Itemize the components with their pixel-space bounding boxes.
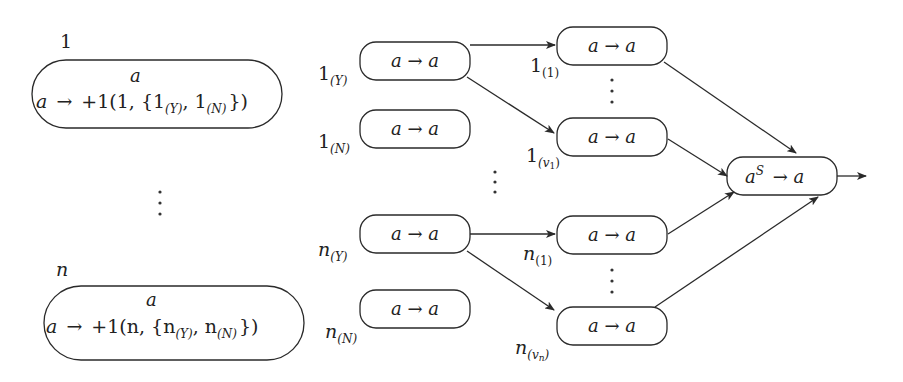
right-node-1-1-rule: a → a	[588, 35, 636, 56]
right-node-n-vn-rule: a → a	[588, 315, 636, 336]
middle-node-1Y-label: 1(Y)	[318, 62, 348, 88]
left-node-1-top: a	[130, 65, 141, 86]
membrane-system-diagram: 1 a a → +1(1, {1(Y), 1(N)}) n a a → +1(n…	[0, 0, 903, 382]
left-node-1: 1 a a → +1(1, {1(Y), 1(N)})	[32, 30, 282, 128]
left-node-n: n a a → +1(n, {n(Y), n(N)})	[44, 258, 304, 360]
middle-node-nN: a → a n(N)	[325, 290, 470, 346]
right-node-1-v1-rule: a → a	[588, 126, 636, 147]
right-node-n-1-rule: a → a	[588, 224, 636, 245]
middle-node-nY-label: n(Y)	[318, 238, 348, 264]
right-node-1-v1-label: 1(v1)	[526, 144, 560, 171]
middle-node-1N: a → a 1(N)	[318, 110, 470, 156]
right-node-1-1: a → a 1(1)	[530, 27, 667, 80]
right-node-n-vn-label: n(vn)	[515, 336, 550, 363]
left-node-n-label: n	[56, 258, 68, 280]
middle-node-1N-rule: a → a	[391, 118, 439, 139]
edges	[467, 45, 866, 310]
middle-node-1N-label: 1(N)	[318, 130, 350, 156]
right-upper-ellipsis	[610, 78, 613, 103]
middle-node-1Y-rule: a → a	[391, 50, 439, 71]
right-node-n-1: a → a n(1)	[523, 216, 667, 268]
middle-node-1Y: a → a 1(Y)	[318, 42, 470, 88]
middle-ellipsis	[493, 170, 496, 193]
middle-node-nN-label: n(N)	[325, 320, 357, 346]
right-lower-ellipsis	[610, 268, 613, 293]
right-node-1-v1: a → a 1(v1)	[526, 118, 667, 171]
right-node-n-vn: a → a n(vn)	[515, 307, 667, 363]
left-node-1-rule: a → +1(1, {1(Y), 1(N)})	[36, 90, 248, 116]
right-node-n-1-label: n(1)	[523, 242, 552, 268]
edge-1Y-to-1-v1	[467, 77, 554, 133]
left-node-n-rule: a → +1(n, {n(Y), n(N)})	[46, 315, 258, 341]
middle-node-nY: a → a n(Y)	[318, 215, 470, 264]
left-node-n-top: a	[146, 289, 157, 310]
edge-n-1-to-output	[668, 192, 734, 234]
output-node-rule: aS → a	[745, 164, 804, 187]
edge-1-v1-to-output	[668, 139, 727, 176]
edge-1-1-to-output	[664, 62, 796, 153]
middle-node-nN-rule: a → a	[391, 298, 439, 319]
left-ellipsis	[158, 190, 161, 215]
left-node-1-label: 1	[60, 30, 72, 52]
edge-n-vn-to-output	[655, 197, 818, 307]
output-node: aS → a	[727, 157, 837, 195]
middle-node-nY-rule: a → a	[391, 223, 439, 244]
right-node-1-1-label: 1(1)	[530, 54, 559, 80]
